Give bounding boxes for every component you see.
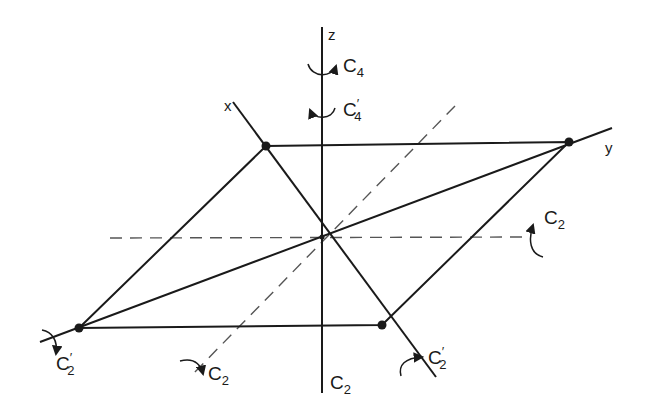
vertex-atom [378,321,387,330]
vertex-atom [75,324,84,333]
c4-label: C4 [343,55,364,80]
c2-right-label: C2 [544,207,565,232]
c2-diagonal-rotation-arrow-icon [180,360,203,374]
c2-prime-left-rotation-arrow-icon [42,330,56,354]
y-axis-label: y [605,139,613,156]
c2-diagonal-label: C2 [208,363,229,388]
c4-prime-label: C′4 [343,96,361,124]
vertex-atom [262,142,271,151]
c2-prime-right-rotation-arrow-icon [400,357,422,376]
c2-prime-left-label: C′2 [56,350,74,378]
y-axis [40,128,612,342]
c2-right-rotation-arrow-icon [530,225,543,257]
vertex-atom [565,138,574,147]
c2-prime-right-label: C′2 [428,344,446,372]
x-axis-label: x [224,97,232,114]
c2-z-label: C2 [330,372,351,397]
center-atom [320,235,325,240]
z-axis-label: z [328,26,336,43]
symmetry-diagram: z x y C4 C′4 C2 C2 C2 C′2 C′2 [0,0,646,419]
